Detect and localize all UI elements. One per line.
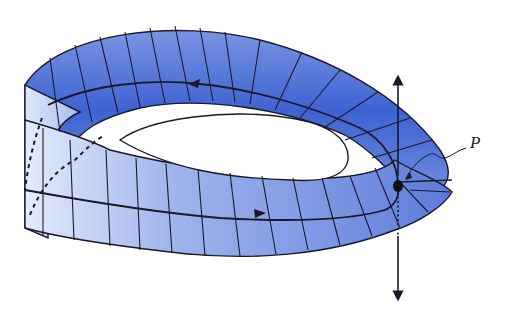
mobius-strip-figure: P bbox=[0, 0, 512, 311]
point-p bbox=[393, 180, 403, 192]
point-label: P bbox=[469, 133, 480, 152]
